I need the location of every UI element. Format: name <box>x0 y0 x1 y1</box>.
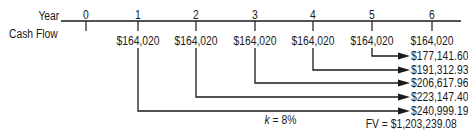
timeline-graphics <box>0 0 468 130</box>
compounding-arrows <box>138 48 400 111</box>
arrow-year-5 <box>372 48 400 56</box>
arrowhead-icon <box>398 67 410 74</box>
arrowheads <box>398 53 410 115</box>
arrowhead-icon <box>398 108 410 115</box>
arrow-year-2 <box>196 48 400 97</box>
rate-value: = 8% <box>270 113 297 127</box>
year-label-3: 3 <box>246 8 263 22</box>
future-value-year-4: $191,312.93 <box>411 63 468 77</box>
interest-rate-label: k = 8% <box>265 113 297 127</box>
year-label-1: 1 <box>129 8 146 22</box>
year-ticks <box>86 21 432 31</box>
year-label-5: 5 <box>363 8 380 22</box>
year-label-6: 6 <box>423 8 440 22</box>
cash-flow-row-label: Cash Flow <box>9 27 58 41</box>
future-value-year-2: $223,147.40 <box>411 90 468 104</box>
arrowhead-icon <box>398 53 410 60</box>
arrowhead-icon <box>398 94 410 101</box>
future-value-year-3: $206,617.96 <box>411 76 468 90</box>
arrowhead-icon <box>398 80 410 87</box>
cash-flow-year-3: $164,020 <box>225 34 285 48</box>
year-label-0: 0 <box>77 8 94 22</box>
cash-flow-year-1: $164,020 <box>108 34 168 48</box>
cash-flow-year-5: $164,020 <box>342 34 402 48</box>
future-value-year-1: $240,999.19 <box>411 104 468 118</box>
future-value-year-5: $177,141.60 <box>411 49 468 63</box>
arrow-year-3 <box>255 48 400 83</box>
year-label-2: 2 <box>187 8 204 22</box>
arrow-year-1 <box>138 48 400 111</box>
year-label-4: 4 <box>304 8 321 22</box>
cash-flow-year-6: $164,020 <box>402 34 462 48</box>
cash-flow-year-4: $164,020 <box>283 34 343 48</box>
future-value-total: FV = $1,203,239.08 <box>366 117 457 130</box>
cash-flow-year-2: $164,020 <box>166 34 226 48</box>
year-row-label: Year <box>38 9 59 23</box>
arrow-year-4 <box>313 48 400 70</box>
